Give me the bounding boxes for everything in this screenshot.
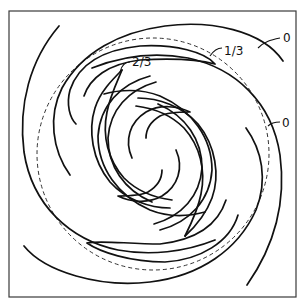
contour-label-outer-top: 0 [283, 31, 291, 45]
leader-one-third [210, 48, 222, 56]
contour-label-one-third: 1/3 [224, 44, 243, 58]
contour-label-two-thirds: 2/3 [132, 55, 151, 69]
contour-core-upper-hook [128, 107, 190, 158]
contour-label-outer-right: 0 [282, 116, 290, 130]
plot-frame [9, 11, 296, 297]
contour-two-thirds-right-inner [136, 106, 203, 236]
spiral-contour-diagram: 0 1/3 2/3 0 [0, 0, 308, 306]
